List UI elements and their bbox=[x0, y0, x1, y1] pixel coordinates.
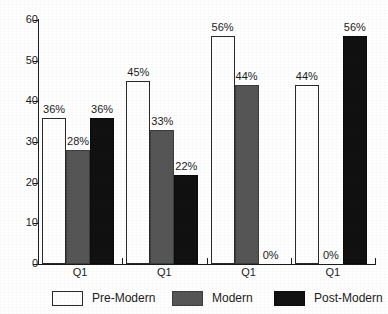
y-axis-tick-label-wrap: 20 bbox=[0, 177, 38, 188]
x-axis-group-label: Q1 bbox=[229, 266, 269, 278]
x-axis-tick bbox=[291, 258, 292, 265]
bar-modern-group-2 bbox=[150, 130, 174, 264]
y-axis-tick-label: 0 bbox=[10, 258, 38, 269]
y-axis-tick-label-wrap: 40 bbox=[0, 95, 38, 106]
x-axis-tick bbox=[122, 258, 123, 265]
legend-swatch-pre-modern bbox=[52, 291, 83, 306]
bar-chart: 0102030405060 36%28%36%45%33%22%56%44%0%… bbox=[0, 0, 388, 314]
legend-label: Pre-Modern bbox=[92, 292, 155, 305]
y-axis-tick-label: 60 bbox=[10, 14, 38, 25]
legend-item-post-modern[interactable]: Post-Modern bbox=[274, 290, 383, 306]
bar-value-label: 44% bbox=[229, 71, 265, 82]
bar-value-label: 36% bbox=[84, 104, 120, 115]
legend-item-pre-modern[interactable]: Pre-Modern bbox=[52, 290, 155, 306]
legend-item-modern[interactable]: Modern bbox=[172, 290, 253, 306]
bar-post-modern-group-2 bbox=[174, 175, 198, 264]
bar-pre-modern-group-2 bbox=[126, 81, 150, 264]
y-axis-tick-label-wrap: 30 bbox=[0, 136, 38, 147]
plot-area: 36%28%36%45%33%22%56%44%0%44%0%56% bbox=[38, 20, 375, 264]
y-axis-tick-label-wrap: 10 bbox=[0, 217, 38, 228]
bar-value-label: 45% bbox=[120, 67, 156, 78]
x-axis-group-label: Q1 bbox=[60, 266, 100, 278]
chart-legend: Pre-ModernModernPost-Modern bbox=[52, 290, 352, 310]
bar-value-label: 56% bbox=[337, 22, 373, 33]
y-axis-tick-label: 50 bbox=[10, 55, 38, 66]
y-axis-tick-label-wrap: 60 bbox=[0, 14, 38, 25]
y-axis-tick-label: 30 bbox=[10, 136, 38, 147]
bar-value-label: 56% bbox=[205, 22, 241, 33]
bar-pre-modern-group-4 bbox=[295, 85, 319, 264]
bar-value-label: 33% bbox=[144, 116, 180, 127]
bar-value-label: 0% bbox=[253, 250, 289, 261]
x-axis-tick bbox=[38, 258, 39, 265]
y-axis-tick-label: 10 bbox=[10, 217, 38, 228]
legend-label: Modern bbox=[212, 292, 253, 305]
y-axis-tick-label-wrap: 0 bbox=[0, 258, 38, 269]
bar-modern-group-3 bbox=[235, 85, 259, 264]
legend-label: Post-Modern bbox=[314, 292, 383, 305]
legend-swatch-modern bbox=[172, 291, 203, 306]
bar-value-label: 36% bbox=[36, 104, 72, 115]
bar-post-modern-group-1 bbox=[90, 118, 114, 264]
y-axis-tick-label: 40 bbox=[10, 95, 38, 106]
bar-post-modern-group-4 bbox=[343, 36, 367, 264]
x-axis-group-label: Q1 bbox=[313, 266, 353, 278]
x-axis-group-label: Q1 bbox=[144, 266, 184, 278]
x-axis-tick bbox=[375, 258, 376, 265]
bar-value-label: 22% bbox=[168, 161, 204, 172]
bar-value-label: 44% bbox=[289, 71, 325, 82]
legend-swatch-post-modern bbox=[274, 291, 305, 306]
x-axis-tick bbox=[207, 258, 208, 265]
bar-modern-group-1 bbox=[66, 150, 90, 264]
y-axis-tick-label: 20 bbox=[10, 177, 38, 188]
y-axis-tick-label-wrap: 50 bbox=[0, 55, 38, 66]
